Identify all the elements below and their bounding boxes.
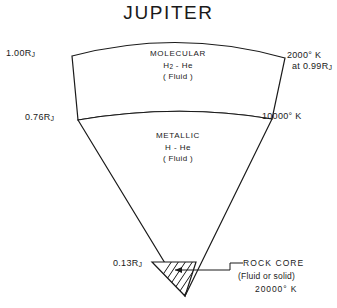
metallic-layer-label: METALLIC H - He ( Fluid )	[118, 130, 238, 165]
radius-label-core: 0.13RJ	[113, 258, 142, 270]
radius-boundary-unit: R	[44, 112, 51, 122]
temperature-outer-line2: at 0.99RJ	[287, 61, 332, 73]
metallic-layer-state: ( Fluid )	[118, 153, 238, 165]
radius-core-value: 0.13	[113, 258, 132, 268]
molecular-layer-label: MOLECULAR H2 - He ( Fluid )	[118, 48, 238, 83]
rock-core-temperature: 20000° K	[255, 283, 335, 296]
molecular-layer-state: ( Fluid )	[118, 71, 238, 83]
temperature-label-metallic-boundary: 10000° K	[262, 111, 302, 122]
molecular-composition-suffix: - He	[173, 61, 193, 70]
rock-core-state: (Fluid or solid)	[238, 270, 335, 283]
molecular-layer-composition: H2 - He	[118, 60, 238, 72]
radius-core-unit: R	[132, 258, 139, 268]
radius-boundary-subscript: J	[51, 115, 55, 122]
radius-surface-unit: R	[25, 48, 32, 58]
page-title: JUPITER	[0, 2, 337, 24]
metallic-layer-composition: H - He	[118, 142, 238, 154]
metallic-composition-suffix: - He	[171, 143, 191, 152]
rock-core-label: ROCK CORE (Fluid or solid) 20000° K	[243, 257, 335, 295]
temperature-outer-prefix: at 0.99	[292, 61, 322, 71]
radius-surface-subscript: J	[32, 51, 36, 58]
temperature-label-outer: 2000° K at 0.99RJ	[287, 50, 332, 72]
molecular-layer-name: MOLECULAR	[118, 48, 238, 60]
temperature-outer-line1: 2000° K	[287, 50, 332, 61]
temperature-outer-subscript: J	[328, 64, 332, 71]
radius-surface-value: 1.00	[6, 48, 25, 58]
radius-label-molecular-metallic-boundary: 0.76RJ	[25, 112, 54, 124]
rock-core-title: ROCK CORE	[243, 257, 335, 270]
radius-label-surface: 1.00RJ	[6, 48, 35, 60]
radius-boundary-value: 0.76	[25, 112, 44, 122]
radius-core-subscript: J	[139, 261, 143, 268]
metallic-layer-name: METALLIC	[118, 130, 238, 142]
jupiter-interior-diagram: JUPITER 1.00RJ 0.76RJ 0.13RJ 2000° K at …	[0, 0, 337, 308]
